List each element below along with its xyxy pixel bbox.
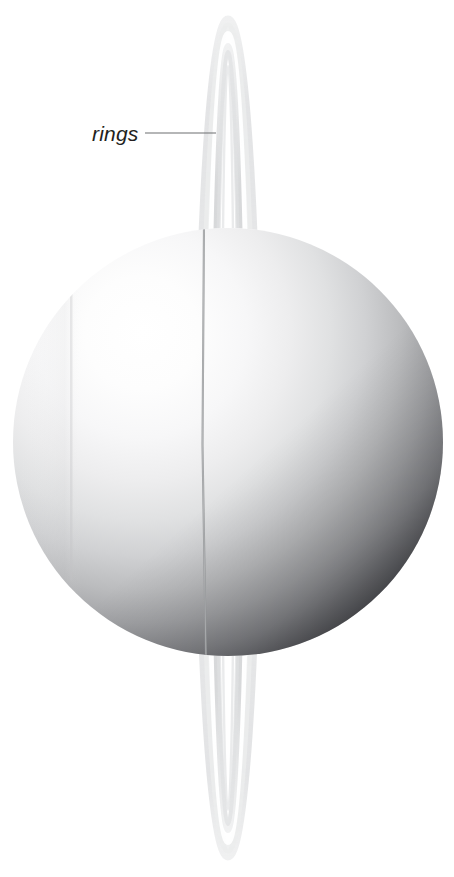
sphere-left-band xyxy=(70,250,73,580)
uranus-sphere xyxy=(13,228,443,656)
uranus-diagram: rings xyxy=(0,0,454,877)
figure-canvas: rings xyxy=(0,0,454,877)
rings-label: rings xyxy=(92,122,139,145)
sphere-cloud-bands xyxy=(13,228,443,656)
annotation-rings[interactable]: rings xyxy=(92,122,216,145)
